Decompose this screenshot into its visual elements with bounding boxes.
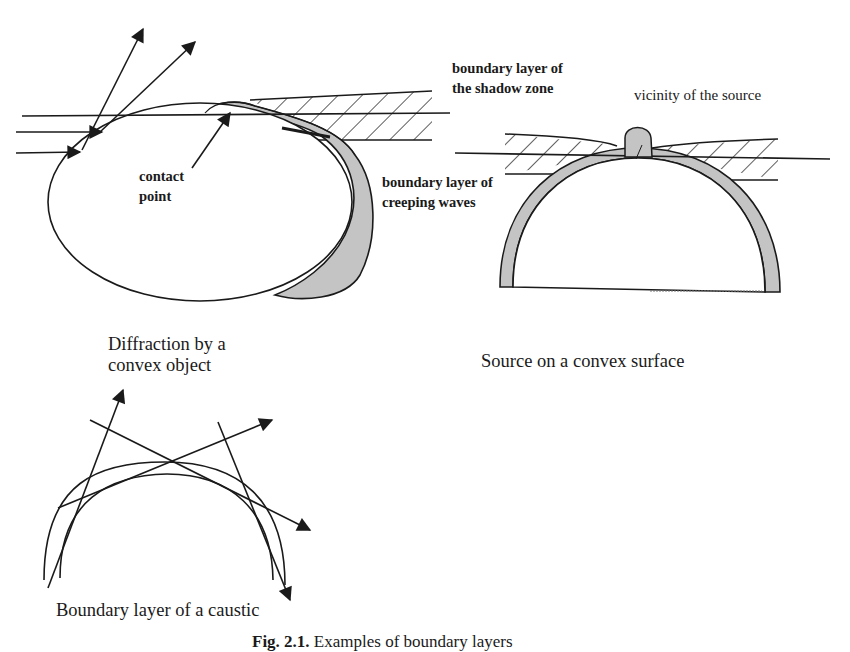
shadow-zone-label: boundary layer of the shadow zone	[452, 58, 563, 98]
creeping-waves-label-line1: boundary layer of	[382, 172, 493, 192]
panel-title-line1: Diffraction by a	[108, 334, 226, 355]
panel-title-line2: convex object	[108, 355, 226, 376]
contact-point-label-line1: contact	[139, 166, 184, 186]
panel-title-source-surface: Source on a convex surface	[481, 351, 684, 372]
caustic-outer-arc	[44, 462, 285, 585]
figure-caption: Fig. 2.1. Examples of boundary layers	[252, 632, 513, 652]
vicinity-label: vicinity of the source	[634, 86, 761, 104]
creeping-waves-label-line2: creeping waves	[382, 192, 493, 212]
shadow-zone-label-line2: the shadow zone	[452, 78, 563, 98]
figure-number: Fig. 2.1.	[252, 632, 310, 651]
caustic-inner-arc	[60, 474, 273, 580]
creeping-waves-label: boundary layer of creeping waves	[382, 172, 493, 212]
convex-object-diagram	[16, 29, 450, 301]
shadow-zone-label-line1: boundary layer of	[452, 58, 563, 78]
caustic-diagram	[44, 390, 310, 600]
source-surface-diagram	[455, 128, 830, 293]
contact-point-label-line2: point	[139, 186, 184, 206]
figure-caption-text: Examples of boundary layers	[314, 632, 513, 651]
panel-title-convex-object: Diffraction by a convex object	[108, 334, 226, 376]
contact-point-label: contact point	[139, 166, 184, 206]
panel-title-caustic: Boundary layer of a caustic	[56, 600, 259, 621]
